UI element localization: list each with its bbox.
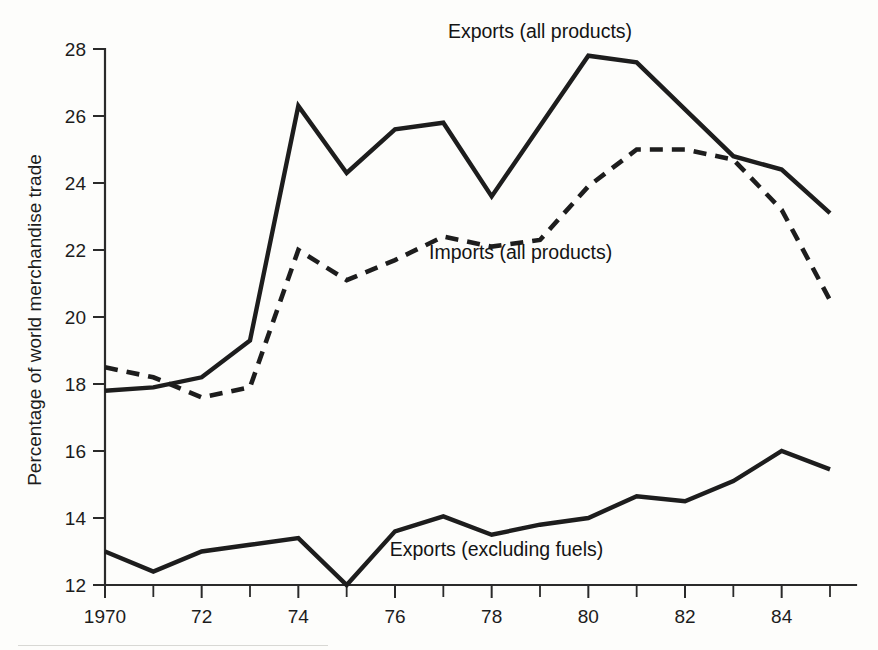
caption-divider: [18, 645, 328, 646]
chart-figure: 121416182022242628197072747678808284 Exp…: [0, 0, 878, 650]
y-tick-label: 18: [65, 374, 86, 395]
series-line-0: [105, 56, 830, 391]
x-tick-label: 1970: [84, 606, 126, 627]
x-tick-label: 74: [288, 606, 310, 627]
series-label-2: Exports (excluding fuels): [390, 538, 604, 560]
y-tick-label: 20: [65, 307, 86, 328]
series-line-2: [105, 451, 830, 585]
y-tick-label: 14: [65, 508, 87, 529]
y-tick-label: 26: [65, 106, 86, 127]
x-tick-label: 82: [674, 606, 695, 627]
y-tick-label: 22: [65, 240, 86, 261]
series-label-1: Imports (all products): [429, 241, 612, 263]
line-chart: 121416182022242628197072747678808284 Exp…: [0, 0, 878, 650]
series-line-1: [105, 150, 830, 398]
y-axis-title: Percentage of world merchandise trade: [24, 154, 45, 486]
y-tick-label: 24: [65, 173, 87, 194]
x-tick-label: 72: [191, 606, 212, 627]
x-tick-label: 78: [481, 606, 502, 627]
x-tick-label: 84: [771, 606, 793, 627]
chart-axes: [93, 49, 856, 598]
series-label-0: Exports (all products): [448, 20, 632, 42]
data-series: [105, 56, 830, 585]
y-tick-label: 16: [65, 441, 86, 462]
x-tick-label: 76: [384, 606, 405, 627]
y-tick-label: 12: [65, 575, 86, 596]
y-tick-label: 28: [65, 39, 86, 60]
series-annotations: Exports (all products)Imports (all produ…: [390, 20, 632, 560]
x-tick-label: 80: [578, 606, 599, 627]
